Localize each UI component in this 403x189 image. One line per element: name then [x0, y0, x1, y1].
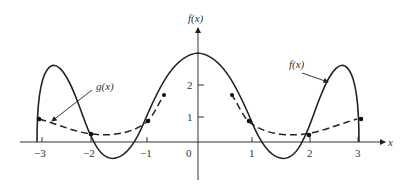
x-tick-label: −2 — [83, 147, 95, 159]
x-tick-label: −1 — [140, 147, 152, 159]
x-axis-label: x — [387, 136, 393, 148]
x-tick-label: −3 — [34, 147, 46, 159]
y-axis-label: f(x) — [188, 12, 204, 25]
g-annotation-arrow — [52, 90, 92, 121]
y-tick-label: 2 — [187, 79, 193, 91]
y-ticks — [198, 85, 204, 117]
f-annotation: f(x) — [289, 58, 305, 71]
chart-canvas: −3 −2 −1 0 1 2 3 1 2 f(x) x g(x) f(x) — [0, 0, 403, 189]
intersection-points — [37, 93, 364, 137]
x-ticks — [42, 137, 358, 142]
x-tick-label: 1 — [249, 147, 255, 159]
x-tick-label: 0 — [186, 147, 192, 159]
g-annotation: g(x) — [96, 80, 114, 93]
f-annotation-arrow — [302, 73, 328, 82]
y-tick-label: 1 — [187, 111, 193, 123]
x-tick-label: 3 — [355, 147, 361, 159]
x-tick-label: 2 — [307, 147, 313, 159]
